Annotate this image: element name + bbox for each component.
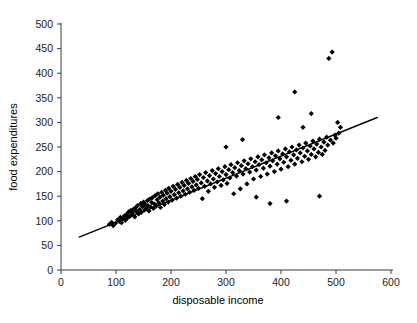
y-tick-label: 300 <box>35 116 53 128</box>
data-point <box>254 168 259 173</box>
data-point <box>330 49 335 54</box>
data-point <box>275 162 280 167</box>
data-point <box>232 165 237 170</box>
data-point <box>302 154 307 159</box>
y-tick-group: 050100150200250300350400450500 <box>35 18 61 276</box>
data-point <box>197 172 202 177</box>
data-point <box>201 175 206 180</box>
data-point <box>262 152 267 157</box>
data-point <box>289 144 294 149</box>
data-point <box>225 181 230 186</box>
data-point <box>207 173 212 178</box>
y-axis-title: food expenditures <box>7 103 19 191</box>
data-point <box>259 157 264 162</box>
y-tick-label: 200 <box>35 165 53 177</box>
data-point <box>240 137 245 142</box>
data-point <box>231 191 236 196</box>
data-point <box>226 167 231 172</box>
data-point <box>255 154 260 159</box>
scatter-plot-figure: 0501001502002503003504004505000100200300… <box>0 0 417 323</box>
y-tick-label: 50 <box>41 239 53 251</box>
data-point <box>245 161 250 166</box>
data-point <box>216 166 221 171</box>
data-point <box>244 181 249 186</box>
data-point <box>223 172 228 177</box>
data-point <box>218 183 223 188</box>
data-point <box>292 162 297 167</box>
data-point <box>258 174 263 179</box>
y-tick-label: 100 <box>35 215 53 227</box>
data-points-group <box>107 49 343 228</box>
data-point <box>319 144 324 149</box>
data-point <box>299 159 304 164</box>
data-point <box>311 146 316 151</box>
data-point <box>212 185 217 190</box>
data-point <box>254 195 259 200</box>
x-axis-title: disposable income <box>172 294 263 306</box>
y-tick-label: 400 <box>35 67 53 79</box>
data-point <box>272 169 277 174</box>
data-point <box>269 150 274 155</box>
data-point <box>199 180 204 185</box>
x-tick-label: 600 <box>382 276 400 288</box>
data-point <box>286 164 291 169</box>
data-point <box>213 171 218 176</box>
data-point <box>222 164 227 169</box>
data-point <box>267 201 272 206</box>
data-point <box>288 158 293 163</box>
data-point <box>335 120 340 125</box>
data-point <box>278 167 283 172</box>
x-tick-label: 0 <box>58 276 64 288</box>
data-point <box>322 148 327 153</box>
data-point <box>235 160 240 165</box>
x-tick-group: 0100200300400500600 <box>58 270 400 288</box>
data-point <box>283 146 288 151</box>
y-tick-label: 0 <box>47 264 53 276</box>
data-point <box>265 171 270 176</box>
data-point <box>295 156 300 161</box>
data-point <box>326 56 331 61</box>
data-point <box>300 125 305 130</box>
data-point <box>276 148 281 153</box>
y-tick-label: 250 <box>35 141 53 153</box>
data-point <box>284 199 289 204</box>
y-tick-label: 500 <box>35 18 53 30</box>
data-point <box>220 169 225 174</box>
y-tick-label: 450 <box>35 42 53 54</box>
data-point <box>309 111 314 116</box>
y-tick-label: 150 <box>35 190 53 202</box>
data-point <box>306 157 311 162</box>
data-point <box>251 176 256 181</box>
data-point <box>313 154 318 159</box>
regression-line <box>79 117 377 237</box>
y-tick-label: 350 <box>35 92 53 104</box>
data-point <box>242 158 247 163</box>
x-tick-label: 500 <box>327 276 345 288</box>
data-point <box>297 142 302 147</box>
data-point <box>206 189 211 194</box>
data-point <box>305 148 310 153</box>
data-point <box>292 89 297 94</box>
data-point <box>325 142 330 147</box>
x-tick-label: 300 <box>217 276 235 288</box>
data-point <box>205 178 210 183</box>
data-point <box>238 186 243 191</box>
data-point <box>261 166 266 171</box>
data-point <box>210 168 215 173</box>
data-point <box>223 144 228 149</box>
data-point <box>248 156 253 161</box>
data-point <box>309 152 314 157</box>
data-point <box>203 170 208 175</box>
data-point <box>267 164 272 169</box>
data-point <box>217 174 222 179</box>
data-point <box>276 115 281 120</box>
data-point <box>317 194 322 199</box>
x-tick-label: 100 <box>107 276 125 288</box>
data-point <box>211 176 216 181</box>
data-point <box>291 152 296 157</box>
data-point <box>200 196 205 201</box>
data-point <box>253 159 258 164</box>
data-point <box>239 163 244 168</box>
x-tick-label: 400 <box>272 276 290 288</box>
data-point <box>338 125 343 130</box>
